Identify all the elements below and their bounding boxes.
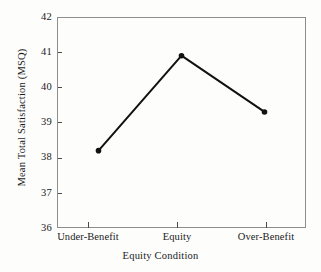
y-tick-label: 36 [28,223,52,233]
x-axis-title: Equity Condition [0,250,321,261]
data-point-marker [262,109,268,115]
x-tick-label-under-benefit: Under-Benefit [57,231,119,242]
x-tick-label-equity: Equity [163,231,192,242]
y-tick-label: 39 [28,117,52,127]
x-tick-label-over-benefit: Over-Benefit [238,231,294,242]
y-tick-label: 42 [28,12,52,22]
y-tick-label: 37 [28,188,52,198]
x-tick-mark [177,222,178,228]
data-series-line [57,17,306,228]
line-path [99,56,265,151]
x-tick-mark [266,222,267,228]
y-tick-label: 41 [28,47,52,57]
chart-figure: Mean Total Satisfaction (MSQ) 42 41 40 3… [0,0,321,272]
y-tick-label: 38 [28,152,52,162]
data-point-marker [96,148,102,154]
x-tick-mark [88,222,89,228]
data-point-marker [179,53,185,59]
plot-area [57,17,306,228]
y-tick-label: 40 [28,82,52,92]
y-axis-tick-labels: 42 41 40 39 38 37 36 [24,0,52,272]
